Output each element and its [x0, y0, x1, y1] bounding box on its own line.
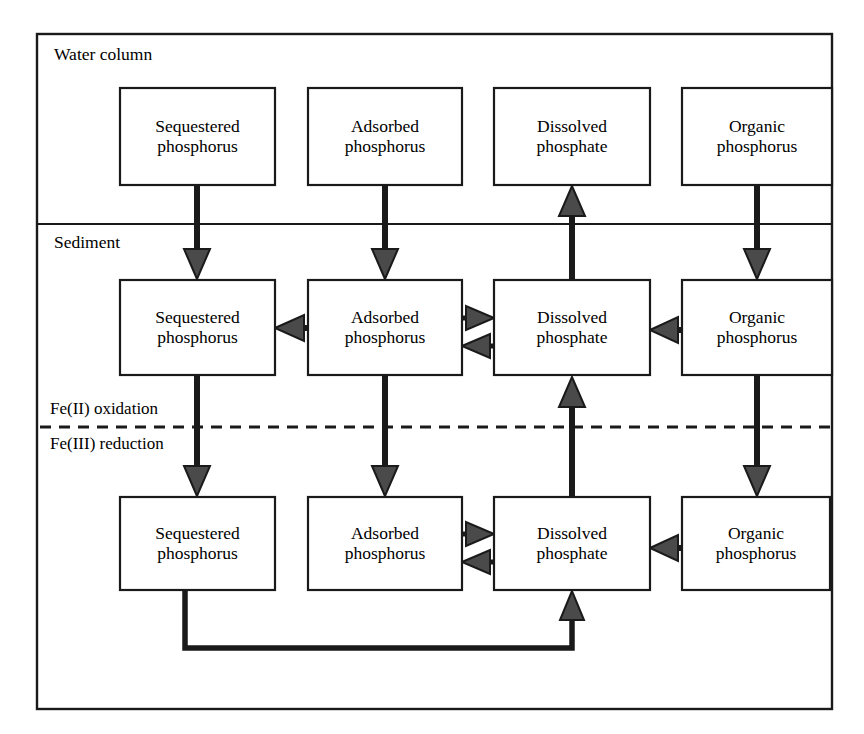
zone-label-sediment: Sediment	[54, 232, 120, 253]
box-rect-anoxic-organic	[682, 497, 830, 590]
box-rect-oxic-organic	[682, 280, 832, 375]
box-rect-water-dissolved	[494, 88, 650, 185]
box-rect-water-organic	[682, 88, 832, 185]
diagram-canvas: Water column Sediment Fe(II) oxidation F…	[0, 0, 864, 734]
box-rect-oxic-sequestered	[120, 280, 275, 375]
box-rect-anoxic-adsorbed	[308, 497, 462, 590]
zone-label-water-column: Water column	[54, 44, 152, 65]
box-rect-water-sequestered	[120, 88, 275, 185]
interface-label-fe3-reduction: Fe(III) reduction	[50, 434, 164, 454]
box-rect-oxic-dissolved	[494, 280, 650, 375]
box-rect-oxic-adsorbed	[308, 280, 462, 375]
box-rect-anoxic-dissolved	[494, 497, 650, 590]
diagram-svg	[0, 0, 864, 734]
box-rect-anoxic-sequestered	[120, 497, 275, 590]
box-rect-water-adsorbed	[308, 88, 462, 185]
interface-label-fe2-oxidation: Fe(II) oxidation	[50, 399, 158, 419]
